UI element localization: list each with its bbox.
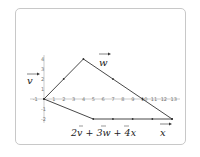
y-tick-label: 2 — [41, 76, 44, 82]
path-point — [112, 78, 114, 80]
y-tick-label: 1 — [41, 86, 44, 92]
x-tick-label: 7 — [111, 96, 114, 102]
x-tick-label: 4 — [82, 96, 85, 102]
x-tick-label: 13 — [171, 96, 177, 102]
x-tick-label: 6 — [102, 96, 105, 102]
x-tick-label: -1 — [33, 96, 38, 102]
vector-diagram: -112345678910111213 4321-1-2 v w x 2v + … — [0, 0, 200, 157]
sum-expression-label: 2v + 3w + 4x — [70, 127, 137, 138]
x-tick-labels: -112345678910111213 — [33, 96, 177, 102]
label-v: v — [27, 73, 40, 87]
y-tick-label: 4 — [41, 56, 44, 62]
label-x: x — [160, 123, 172, 139]
x-label: x — [160, 127, 166, 138]
x-tick-label: 3 — [72, 96, 75, 102]
path-point — [142, 98, 144, 100]
y-tick-labels: 4321-1-2 — [41, 56, 46, 122]
path-point — [63, 78, 65, 80]
upper-path-2v-3w — [44, 59, 172, 119]
path-point — [132, 118, 134, 120]
w-label: w — [99, 57, 108, 68]
x-tick-label: 12 — [161, 96, 167, 102]
lower-path-sum — [44, 99, 172, 119]
path-point — [112, 118, 114, 120]
path-point — [171, 118, 173, 120]
x-tick-label: 8 — [121, 96, 124, 102]
y-tick-label: 3 — [41, 66, 44, 72]
path-points — [43, 58, 173, 120]
y-tick-label: -2 — [41, 116, 46, 122]
path-point — [92, 118, 94, 120]
x-tick-label: 9 — [131, 96, 134, 102]
y-tick-label: -1 — [41, 106, 46, 112]
path-point — [151, 118, 153, 120]
x-tick-label: 1 — [52, 96, 55, 102]
path-point — [43, 98, 45, 100]
path-point — [83, 58, 85, 60]
x-tick-label: 5 — [92, 96, 95, 102]
x-tick-label: 2 — [62, 96, 65, 102]
x-tick-label: 11 — [151, 96, 157, 102]
v-label: v — [27, 75, 33, 86]
label-w: w — [99, 53, 111, 69]
